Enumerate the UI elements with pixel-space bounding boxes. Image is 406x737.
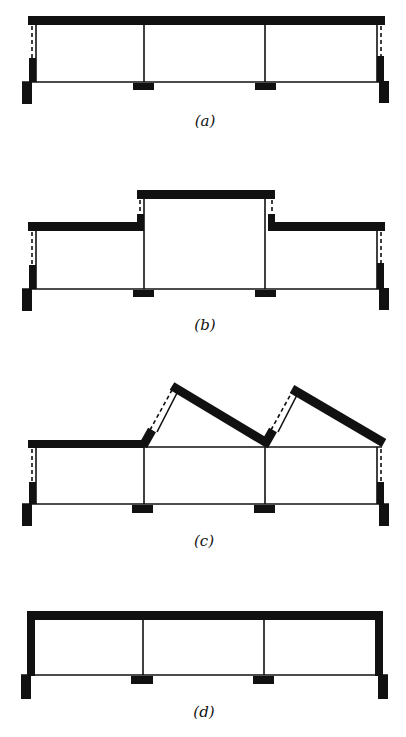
footing-right xyxy=(379,288,389,310)
panel-label-d: (d) xyxy=(174,703,234,721)
footing-left xyxy=(22,289,32,311)
wall-right xyxy=(375,611,383,676)
footing-pad xyxy=(255,290,276,297)
footing-pad xyxy=(255,83,276,90)
lower-roof-left xyxy=(28,222,144,231)
panel-label-a: (a) xyxy=(175,112,235,130)
footing-right xyxy=(379,504,389,526)
roof-slab xyxy=(28,16,385,25)
footing-pad xyxy=(133,83,154,90)
footing-pad xyxy=(133,290,154,297)
footing-pad xyxy=(131,676,153,684)
section-d xyxy=(21,611,388,699)
panel-label-b: (b) xyxy=(175,316,235,334)
lower-roof-right xyxy=(268,222,385,231)
sawtooth-glazing-inner xyxy=(278,395,297,432)
footing-left xyxy=(22,82,32,104)
footing-pad xyxy=(253,676,274,684)
section-a xyxy=(22,16,389,104)
wall-right xyxy=(377,263,384,289)
footing-pad xyxy=(254,505,275,513)
wall-left xyxy=(27,611,35,676)
footing-left xyxy=(21,675,31,699)
roof-slab xyxy=(27,611,383,620)
footing-pad xyxy=(132,505,153,513)
section-c xyxy=(22,386,389,526)
sawtooth-roof xyxy=(172,386,267,443)
panel-label-c: (c) xyxy=(174,532,234,550)
footing-left xyxy=(22,504,32,526)
wall-left xyxy=(29,58,36,82)
wall-left xyxy=(29,482,36,504)
footing-right xyxy=(378,675,388,699)
footing-right xyxy=(379,81,389,103)
sawtooth-roof xyxy=(292,389,384,443)
upper-roof-slab xyxy=(137,190,275,199)
wall-right xyxy=(377,482,384,504)
flat-roof-left xyxy=(28,440,144,448)
wall-left xyxy=(29,265,36,289)
section-b xyxy=(22,190,389,311)
sawtooth-stub xyxy=(143,430,152,446)
sawtooth-stub xyxy=(264,430,273,446)
wall-right xyxy=(377,56,384,82)
building-sections-diagram xyxy=(0,0,406,737)
